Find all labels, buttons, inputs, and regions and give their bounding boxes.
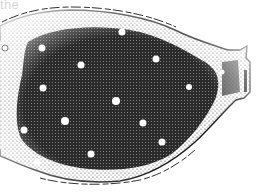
- spot: [88, 151, 95, 158]
- spot: [186, 84, 192, 90]
- spot: [61, 117, 69, 125]
- spot: [21, 127, 28, 134]
- spot: [40, 85, 47, 92]
- spot: [140, 120, 147, 127]
- organism-illustration: [0, 0, 267, 192]
- spot: [112, 97, 120, 105]
- spot: [78, 62, 85, 69]
- spot: [159, 139, 166, 146]
- spot: [39, 45, 46, 52]
- spot: [220, 70, 225, 75]
- spot: [34, 159, 41, 166]
- spot: [153, 56, 160, 63]
- spot: [2, 45, 8, 51]
- spot: [119, 29, 126, 36]
